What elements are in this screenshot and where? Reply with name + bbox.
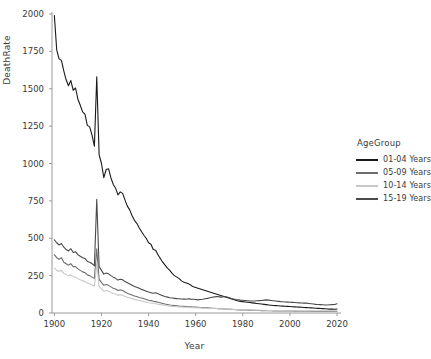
x-tick-label: 1980: [232, 319, 254, 329]
legend-item-label: 15-19 Years: [383, 194, 431, 203]
legend-swatch-icon: [356, 159, 378, 161]
x-tick-label: 1940: [138, 319, 160, 329]
legend-item[interactable]: 05-09 Years: [356, 166, 429, 179]
x-tick-label: 2020: [326, 319, 348, 329]
x-tick-label: 2000: [279, 319, 301, 329]
legend-item-label: 05-09 Years: [383, 168, 431, 177]
legend-item-label: 01-04 Years: [383, 155, 431, 164]
legend-title: AgeGroup: [356, 138, 429, 148]
legend-swatch-icon: [356, 185, 378, 187]
x-tick-label: 1920: [91, 319, 113, 329]
legend-swatch-icon: [356, 198, 378, 200]
legend-item-label: 10-14 Years: [383, 181, 431, 190]
x-tick-label: 1960: [185, 319, 207, 329]
series-line: [54, 249, 337, 312]
x-tick-label: 1900: [44, 319, 66, 329]
legend-swatch-icon: [356, 172, 378, 174]
legend-item[interactable]: 01-04 Years: [356, 153, 429, 166]
chart-legend: AgeGroup 01-04 Years05-09 Years10-14 Yea…: [356, 138, 429, 205]
legend-item[interactable]: 15-19 Years: [356, 192, 429, 205]
legend-item[interactable]: 10-14 Years: [356, 179, 429, 192]
